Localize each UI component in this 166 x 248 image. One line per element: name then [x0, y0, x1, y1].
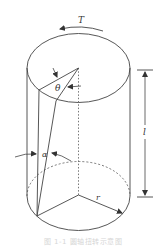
radius-label: r [96, 193, 101, 202]
bottom-radius-left [37, 195, 79, 216]
alpha-arrow-left [15, 154, 36, 157]
torque-label: T [78, 15, 85, 25]
alpha-label: α [42, 150, 48, 159]
figure-caption: 图 1-1 圆轴扭转示意图 [0, 236, 166, 246]
torque-arrow [60, 27, 103, 31]
theta-label: θ [55, 83, 61, 93]
alpha-arrow-right [52, 153, 71, 161]
length-label: l [143, 127, 146, 137]
theta-arrow-right [68, 86, 81, 87]
bottom-radius-right [79, 195, 123, 213]
generator-original [37, 90, 39, 216]
cylinder-torsion-figure: T θ α r l [0, 0, 166, 248]
theta-arrow-left [53, 68, 57, 77]
